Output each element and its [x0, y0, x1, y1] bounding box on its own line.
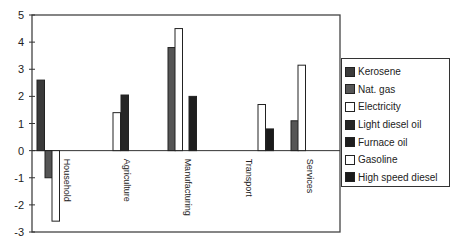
- legend-label: High speed diesel: [358, 172, 438, 183]
- y-tick-label: -3: [14, 226, 24, 238]
- chart-legend: KeroseneNat. gasElectricityLight diesel …: [341, 58, 450, 187]
- legend-swatch-icon: [345, 155, 355, 165]
- legend-item: Kerosene: [345, 63, 449, 81]
- legend-label: Kerosene: [358, 66, 401, 77]
- bar-services-electricity: [298, 65, 306, 150]
- y-tick-label: 5: [18, 9, 24, 21]
- legend-item: Furnace oil: [345, 133, 449, 151]
- y-tick-label: 2: [18, 90, 24, 102]
- legend-item: Light diesel oil: [345, 116, 449, 134]
- bar-transport-high-speed-diesel: [266, 129, 274, 151]
- category-label: Transport: [244, 159, 254, 198]
- bar-manufacturing-nat-gas: [168, 48, 176, 151]
- category-label: Household: [62, 159, 72, 202]
- category-label: Services: [305, 159, 315, 194]
- y-tick-label: 3: [18, 63, 24, 75]
- y-tick-label: -1: [14, 172, 24, 184]
- bar-transport-gasoline: [258, 105, 266, 151]
- bar-services-nat-gas: [291, 121, 299, 151]
- legend-item: Nat. gas: [345, 81, 449, 99]
- legend-label: Furnace oil: [358, 137, 407, 148]
- y-tick-label: -2: [14, 199, 24, 211]
- bar-agriculture-electricity: [113, 113, 121, 151]
- bar-household-nat-gas: [45, 151, 53, 178]
- legend-label: Light diesel oil: [358, 119, 421, 130]
- y-tick-label: 0: [18, 145, 24, 157]
- category-label: Manufacturing: [183, 159, 193, 216]
- bar-manufacturing-electricity: [175, 29, 183, 151]
- legend-swatch-icon: [345, 137, 355, 147]
- legend-swatch-icon: [345, 172, 355, 182]
- legend-swatch-icon: [345, 102, 355, 112]
- legend-swatch-icon: [345, 67, 355, 77]
- legend-swatch-icon: [345, 84, 355, 94]
- bar-agriculture-light-diesel-oil: [121, 95, 129, 151]
- legend-label: Gasoline: [358, 154, 397, 165]
- bar-household-electricity: [52, 151, 60, 222]
- legend-item: High speed diesel: [345, 169, 449, 187]
- legend-label: Electricity: [358, 101, 401, 112]
- legend-label: Nat. gas: [358, 84, 395, 95]
- y-tick-label: 1: [18, 118, 24, 130]
- legend-item: Gasoline: [345, 151, 449, 169]
- bar-household-kerosene: [37, 80, 45, 151]
- bar-manufacturing-furnace-oil: [189, 96, 197, 150]
- legend-swatch-icon: [345, 120, 355, 130]
- y-tick-label: 4: [18, 36, 24, 48]
- legend-item: Electricity: [345, 98, 449, 116]
- category-label: Agriculture: [122, 159, 132, 202]
